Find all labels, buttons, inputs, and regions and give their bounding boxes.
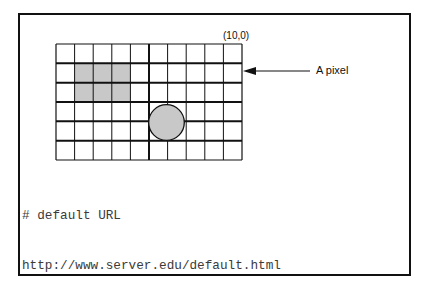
circle-region [149,105,185,141]
pixel-callout-label: A pixel [316,64,348,76]
arrow-icon [243,67,310,75]
grid-corner-coordinate-label: (10,0) [223,30,249,41]
imagemap-code-block: # default URL http://www.server.edu/defa… [22,175,403,286]
code-comment-default: # default URL [22,208,403,225]
code-default-url: http://www.server.edu/default.html [22,258,403,275]
